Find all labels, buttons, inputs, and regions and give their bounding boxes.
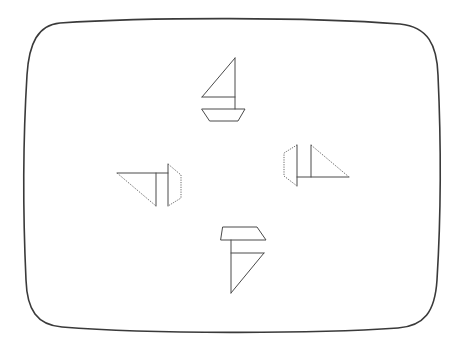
diagram-canvas	[0, 0, 460, 349]
diagram-stage	[0, 0, 460, 349]
hull-bottom	[284, 145, 297, 186]
sailboat-top	[202, 58, 245, 121]
sail-hypotenuse	[202, 58, 235, 97]
sailboat-right	[284, 145, 349, 186]
sail-hypotenuse	[311, 145, 349, 177]
hull	[221, 227, 266, 240]
sail-hypotenuse	[231, 253, 264, 293]
hull	[202, 109, 245, 121]
hull-bottom	[168, 164, 181, 206]
screen-frame	[24, 19, 440, 333]
sailboat-left	[117, 164, 181, 206]
sailboat-bottom	[221, 227, 266, 293]
sail-hypotenuse	[117, 173, 156, 206]
